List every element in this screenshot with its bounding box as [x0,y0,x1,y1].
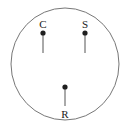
marker-r-dot[interactable] [62,84,67,89]
marker-s-label: S [82,18,88,30]
markers-group: CSR [39,18,88,120]
marker-r[interactable]: R [61,84,69,120]
marker-r-label: R [61,108,69,120]
marker-c[interactable]: C [39,18,46,53]
figure-container: CSR [0,0,131,128]
marker-s-dot[interactable] [82,30,87,35]
marker-c-label: C [39,18,46,30]
marker-s[interactable]: S [82,18,88,53]
marker-c-dot[interactable] [40,30,45,35]
circle-diagram: CSR [0,0,131,128]
